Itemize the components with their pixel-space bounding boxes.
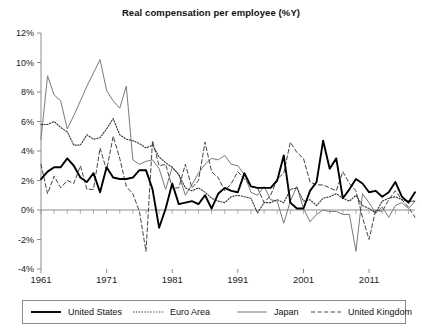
y-tick-label: 2% — [21, 176, 34, 186]
legend-label: United Kingdom — [348, 307, 412, 317]
y-tick-label: 4% — [21, 146, 34, 156]
y-tick-label: 8% — [21, 87, 34, 97]
legend-label: Euro Area — [170, 307, 210, 317]
legend-item: Japan — [237, 301, 299, 323]
y-axis: -4%-2%0%2%4%6%8%10%12% — [16, 28, 41, 274]
legend-label: Japan — [274, 307, 299, 317]
series-line — [41, 136, 415, 251]
zero-line — [41, 210, 415, 214]
y-tick-label: 6% — [21, 117, 34, 127]
y-tick-label: 12% — [16, 28, 34, 38]
x-tick-label: 1991 — [227, 274, 248, 285]
legend-item: United States — [31, 301, 122, 323]
x-tick-label: 1971 — [96, 274, 117, 285]
legend-item: Euro Area — [133, 301, 210, 323]
legend-line-swatch — [133, 307, 163, 317]
x-tick-label: 2011 — [359, 274, 379, 285]
chart-plot-area: -4%-2%0%2%4%6%8%10%12% 19611971198119912… — [0, 0, 422, 300]
chart-container: Real compensation per employee (%Y) -4%-… — [0, 0, 422, 334]
series-line — [41, 60, 415, 252]
y-tick-label: 10% — [16, 58, 34, 68]
legend-item: United Kingdom — [311, 301, 412, 323]
legend-label: United States — [68, 307, 122, 317]
chart-legend: United StatesEuro AreaJapanUnited Kingdo… — [22, 300, 406, 324]
y-tick-label: 0% — [21, 205, 34, 215]
x-tick-label: 1981 — [162, 274, 183, 285]
x-tick-label: 2001 — [293, 274, 314, 285]
legend-line-swatch — [237, 307, 267, 317]
data-series-group — [41, 60, 415, 252]
y-tick-label: -2% — [18, 235, 34, 245]
x-axis: 196119711981199120012011 — [30, 269, 379, 285]
y-tick-label: -4% — [18, 264, 34, 274]
legend-line-swatch — [31, 307, 61, 317]
x-tick-label: 1961 — [30, 274, 51, 285]
series-line — [41, 141, 415, 228]
legend-line-swatch — [311, 307, 341, 317]
